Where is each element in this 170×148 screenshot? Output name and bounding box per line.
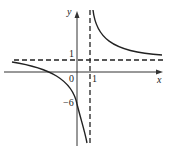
curve-right-branch bbox=[93, 10, 162, 55]
function-graph bbox=[0, 0, 170, 148]
y-tick-1-label: 1 bbox=[69, 49, 74, 59]
y-tick-neg6-label: −6 bbox=[63, 98, 74, 108]
y-axis-label: y bbox=[67, 7, 71, 17]
x-tick-1-label: 1 bbox=[92, 74, 97, 84]
y-axis-arrow-icon bbox=[75, 11, 80, 18]
origin-label: 0 bbox=[69, 74, 74, 84]
curve-left-branch bbox=[12, 62, 87, 143]
x-axis-label: x bbox=[157, 75, 161, 85]
